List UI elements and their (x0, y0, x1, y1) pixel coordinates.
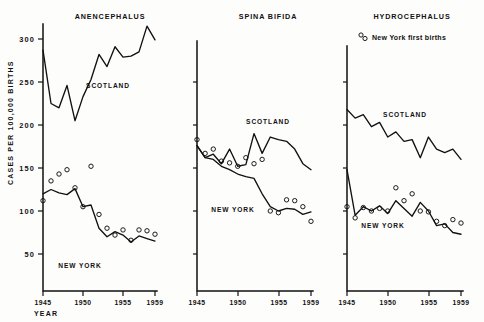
panel1-newyork-line (43, 189, 155, 242)
data-point-marker (145, 229, 149, 233)
panel2-label-scotland: SCOTLAND (246, 118, 290, 125)
legend-label: New York first births (372, 34, 446, 41)
chart-svg: CASES PER 100,000 BIRTHS ANENCEPHALUS 50… (0, 0, 484, 322)
data-point-marker (284, 198, 288, 202)
x-tick-1955-p3: 1955 (420, 299, 437, 306)
data-point-marker (434, 219, 438, 223)
data-point-marker (121, 228, 125, 232)
data-point-marker (105, 226, 109, 230)
data-point-marker (268, 209, 272, 213)
data-point-marker (113, 233, 117, 237)
x-tick-1950-p3: 1950 (379, 299, 396, 306)
legend-marker-icon-b (363, 36, 367, 40)
y-tick-150: 150 (19, 164, 35, 173)
data-point-marker (459, 221, 463, 225)
data-point-marker (97, 212, 101, 216)
data-point-marker (402, 198, 406, 202)
legend-marker-icon-a (359, 33, 363, 37)
panel-anencephalus: ANENCEPHALUS 50 100 150 200 250 300 (19, 12, 163, 317)
y-tick-250: 250 (19, 78, 35, 87)
y-axis-title: CASES PER 100,000 BIRTHS (7, 60, 15, 185)
panel-title-anencephalus: ANENCEPHALUS (75, 12, 146, 21)
y-tick-50: 50 (25, 250, 35, 259)
data-point-marker (377, 206, 381, 210)
panel2-series-scotland (197, 134, 311, 170)
data-point-marker (252, 162, 256, 166)
panel-spina-bifida: SPINA BIFIDA 1945 1950 1955 1959 (188, 12, 319, 306)
x-tick-1945-p3: 1945 (338, 299, 355, 306)
panel2-scotland-line (197, 134, 311, 170)
panel-title-hydrocephalus: HYDROCEPHALUS (373, 12, 450, 21)
legend: New York first births (359, 33, 446, 41)
panel3-axes (347, 46, 463, 291)
data-point-marker (211, 147, 215, 151)
panel-hydrocephalus: HYDROCEPHALUS New York first births (338, 12, 469, 306)
y-tick-200: 200 (19, 121, 35, 130)
data-point-marker (293, 198, 297, 202)
x-tick-1950-p2: 1950 (229, 299, 246, 306)
panel2-x-tick-labels: 1945 1950 1955 1959 (188, 299, 319, 306)
panel1-y-tick-labels: 50 100 150 200 250 300 (19, 35, 35, 259)
panel-title-spina-bifida: SPINA BIFIDA (239, 12, 297, 21)
panel1-x-tick-labels: 1945 1950 1955 1959 (34, 299, 163, 306)
x-axis-title: YEAR (34, 310, 58, 317)
panel1-label-scotland: SCOTLAND (86, 82, 130, 89)
data-point-marker (418, 209, 422, 213)
x-tick-1955: 1955 (114, 299, 131, 306)
data-point-marker (137, 228, 141, 232)
data-point-marker (309, 219, 313, 223)
data-point-marker (451, 217, 455, 221)
data-point-marker (394, 186, 398, 190)
panel1-scotland-line (43, 26, 155, 121)
y-tick-100: 100 (19, 207, 35, 216)
panel1-axes (43, 24, 157, 291)
x-tick-1955-p2: 1955 (270, 299, 287, 306)
panel1-series-newyork (43, 189, 155, 242)
data-point-marker (260, 157, 264, 161)
panel1-label-newyork: NEW YORK (58, 262, 101, 269)
data-point-marker (227, 161, 231, 165)
panel1-series-markers (41, 164, 157, 242)
data-point-marker (203, 151, 207, 155)
data-point-marker (49, 179, 53, 183)
figure-container: CASES PER 100,000 BIRTHS ANENCEPHALUS 50… (0, 0, 484, 322)
x-tick-1959-p3: 1959 (452, 299, 469, 306)
data-point-marker (410, 192, 414, 196)
x-tick-1945-p2: 1945 (188, 299, 205, 306)
x-tick-1945: 1945 (34, 299, 51, 306)
panel2-label-newyork: NEW YORK (211, 206, 254, 213)
panel3-label-scotland: SCOTLAND (383, 111, 427, 118)
x-tick-1959: 1959 (146, 299, 163, 306)
panel1-series-scotland (43, 26, 155, 121)
data-point-marker (65, 168, 69, 172)
x-tick-1950: 1950 (74, 299, 91, 306)
data-point-marker (89, 164, 93, 168)
panel3-x-tick-labels: 1945 1950 1955 1959 (338, 299, 469, 306)
data-point-marker (57, 172, 61, 176)
data-point-marker (153, 232, 157, 236)
y-tick-300: 300 (19, 35, 35, 44)
data-point-marker (353, 216, 357, 220)
x-tick-1959-p2: 1959 (302, 299, 319, 306)
panel3-label-newyork: NEW YORK (361, 222, 404, 229)
data-point-marker (301, 205, 305, 209)
